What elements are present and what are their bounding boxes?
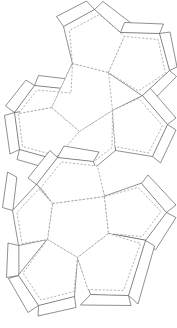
- glue-tab: [7, 243, 19, 278]
- glue-tab: [121, 23, 164, 34]
- net-drawing-canvas: [0, 0, 177, 328]
- dodecahedron-net-figure: [0, 0, 177, 328]
